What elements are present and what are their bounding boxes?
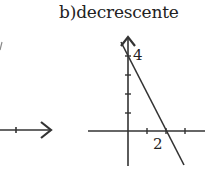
title-text: decrescente: [76, 2, 179, 22]
y-intercept-label: 4: [133, 46, 143, 64]
part-label: b): [59, 2, 76, 22]
figure-title: b)decrescente: [59, 2, 179, 22]
main-graph: [88, 37, 205, 166]
left-line-fragment: [0, 42, 2, 50]
x-intercept-label: 2: [153, 135, 163, 153]
chart-canvas: [0, 0, 205, 184]
figure: b)decrescente 4 2: [0, 0, 205, 184]
left-partial-graph: [0, 42, 51, 138]
